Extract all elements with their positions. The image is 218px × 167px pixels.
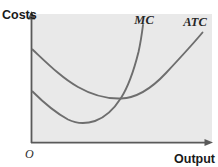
origin-label: O: [25, 147, 34, 161]
plot-area-background: [31, 14, 212, 143]
atc-curve-label: ATC: [182, 15, 207, 29]
x-axis-title: Output: [174, 152, 216, 166]
cost-curves-figure: MC ATC Costs Output O: [0, 0, 218, 167]
y-axis-title: Costs: [2, 8, 37, 22]
mc-curve-label: MC: [133, 13, 154, 27]
chart-canvas: MC ATC Costs Output O: [0, 0, 218, 167]
